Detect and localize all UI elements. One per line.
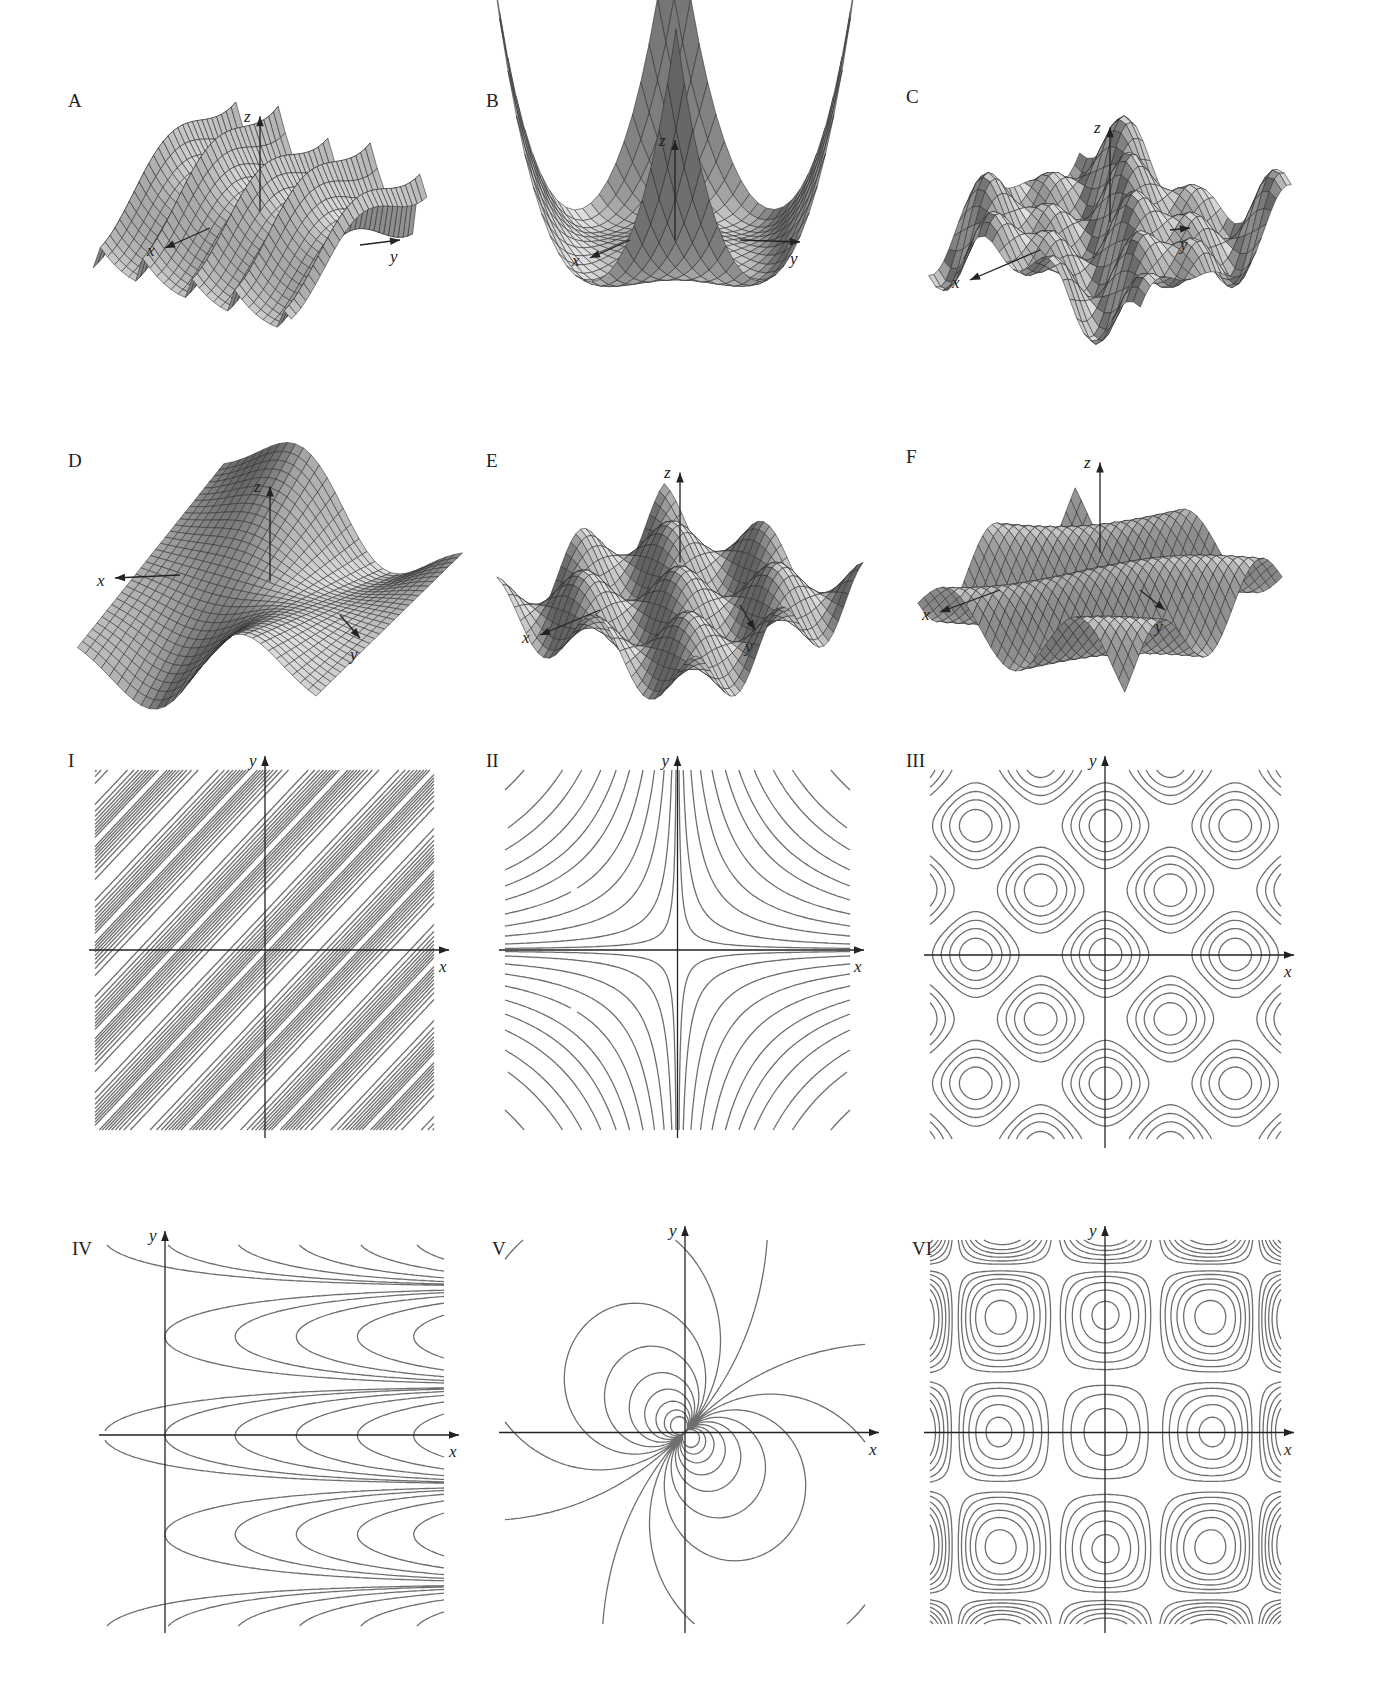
contour-panel-i: I xy: [60, 750, 460, 1150]
contour-panel-vi: VI xy: [900, 1220, 1320, 1640]
surface-panel-a: A zxy: [60, 80, 460, 340]
z-axis-label: z: [658, 131, 666, 150]
surface-panel-f: F zxy: [900, 440, 1300, 700]
arrowhead-icon: [869, 1429, 879, 1437]
surface-panel-d: D zxy: [60, 440, 480, 700]
y-axis-label: y: [788, 249, 798, 268]
x-axis-label: x: [853, 957, 862, 976]
contour-panel-iv: IV xy: [60, 1220, 480, 1640]
arrowhead-icon: [449, 1431, 459, 1439]
x-axis-label: x: [448, 1442, 457, 1461]
z-axis-label: z: [1093, 118, 1101, 137]
contour-plot-vi: xy: [900, 1220, 1320, 1640]
x-axis-label: x: [1283, 962, 1292, 981]
arrowhead-icon: [439, 946, 449, 954]
surface-plot-d: zxy: [60, 440, 480, 700]
arrowhead-icon: [261, 756, 269, 766]
arrowhead-icon: [1284, 951, 1294, 959]
arrowhead-icon: [676, 472, 684, 482]
contour-panel-ii: II xy: [480, 750, 900, 1150]
z-axis-label: z: [243, 107, 251, 126]
surface-plot-a: zxy: [60, 80, 460, 340]
arrowhead-icon: [1101, 756, 1109, 766]
surface-plot-f: zxy: [900, 440, 1300, 700]
arrowhead-icon: [1096, 462, 1104, 472]
arrowhead-icon: [970, 273, 981, 280]
x-axis-label: x: [96, 571, 105, 590]
y-axis-label: y: [1087, 751, 1097, 770]
y-axis-label: y: [147, 1226, 157, 1245]
surface-plot-e: zxy: [480, 440, 880, 700]
contour-panel-v: V xy: [480, 1220, 900, 1640]
surface-plot-b: zxy: [480, 80, 880, 340]
arrowhead-icon: [390, 237, 400, 245]
contour-plot-i: xy: [60, 750, 460, 1150]
arrowhead-icon: [674, 756, 682, 766]
y-axis-label: y: [348, 645, 358, 664]
arrowhead-icon: [681, 1226, 689, 1236]
contour-plot-iv: xy: [60, 1220, 480, 1640]
x-axis-label: x: [146, 241, 155, 260]
z-axis-label: z: [253, 477, 261, 496]
contour-plot-iii: xy: [900, 750, 1320, 1150]
x-axis-label: x: [571, 251, 580, 270]
x-axis-label: x: [1283, 1440, 1292, 1459]
z-axis-label: z: [1083, 453, 1091, 472]
y-axis-label: y: [1178, 235, 1188, 254]
y-axis-label: y: [1087, 1221, 1097, 1240]
y-axis-label: y: [247, 751, 257, 770]
y-axis-label: y: [1153, 617, 1163, 636]
arrowhead-icon: [161, 1231, 169, 1241]
x-axis-label: x: [521, 628, 530, 647]
x-axis-label: x: [868, 1440, 877, 1459]
contour-plot-ii: xy: [480, 750, 900, 1150]
x-axis-label: x: [951, 273, 960, 292]
surface-panel-c: C zxy: [900, 80, 1320, 340]
y-axis-label: y: [388, 247, 398, 266]
y-axis-label: y: [667, 1221, 677, 1240]
x-axis-label: x: [921, 605, 930, 624]
arrowhead-icon: [115, 574, 125, 582]
contour-panel-iii: III xy: [900, 750, 1320, 1150]
contour-plot-v: xy: [480, 1220, 900, 1640]
surface-plot-c: zxy: [900, 80, 1320, 340]
x-axis-label: x: [438, 957, 447, 976]
surface-panel-e: E zxy: [480, 440, 880, 700]
y-axis-label: y: [660, 751, 670, 770]
z-axis-label: z: [663, 463, 671, 482]
arrowhead-icon: [1284, 1429, 1294, 1437]
surface-panel-b: B zxy: [480, 80, 880, 340]
y-axis-label: y: [743, 637, 753, 656]
arrowhead-icon: [1101, 1226, 1109, 1236]
arrowhead-icon: [854, 946, 864, 954]
